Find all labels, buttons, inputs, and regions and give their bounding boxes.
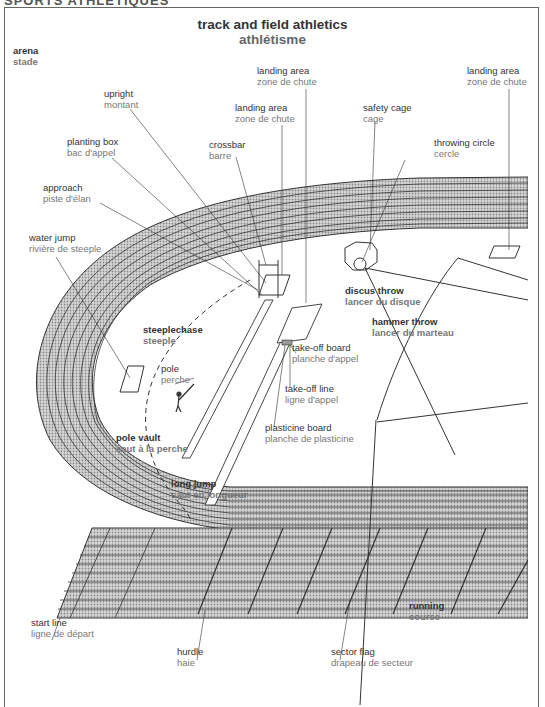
discus-cage [345, 242, 377, 270]
label-water-jump: water jumprivière de steeple [29, 232, 101, 254]
label-hammer-throw: hammer throwlancer du marteau [372, 316, 454, 338]
label-planting-box: planting boxbac d'appel [67, 136, 118, 158]
label-crossbar: crossbarbarre [209, 139, 245, 161]
label-safety-cage: safety cagecage [363, 102, 412, 124]
hammer-landing-area [489, 246, 520, 258]
label-hurdle: hurdlehaie [177, 646, 203, 668]
label-arena: arenastade [13, 45, 38, 67]
label-pole-vault: pole vaultsaut à la perche [116, 432, 188, 454]
label-sector-flag: sector flagdrapeau de secteur [331, 646, 413, 668]
label-discus-throw: discus throwlancer du disque [345, 285, 421, 307]
long-jump-pit [277, 304, 322, 343]
take-off-board [282, 340, 292, 345]
pole-vault-setup [259, 260, 290, 298]
label-approach: approachpiste d'élan [43, 182, 91, 204]
label-steeplechase: steeplechasesteeple [143, 324, 203, 346]
athlete [176, 384, 194, 412]
water-jump [120, 366, 144, 392]
label-plasticine-board: plasticine boardplanche de plasticine [265, 422, 354, 444]
title-french: athlétisme [0, 32, 545, 47]
label-running: runningcourse [409, 600, 444, 622]
diagram-title: track and field athletics athlétisme [0, 17, 545, 47]
label-start-line: start lineligne de départ [31, 617, 94, 639]
label-upright: uprightmontant [104, 88, 138, 110]
label-throwing-circle: throwing circlecercle [434, 137, 495, 159]
label-take-off-board: take-off boardplanche d'appel [292, 342, 358, 364]
label-landing-area-high-jump: landing areazone de chute [257, 65, 317, 87]
title-english: track and field athletics [0, 17, 545, 32]
label-landing-area-hammer: landing areazone de chute [467, 65, 527, 87]
label-pole: poleperche [161, 363, 190, 385]
label-take-off-line: take-off lineligne d'appel [285, 383, 338, 405]
label-landing-area-pole-vault: landing areazone de chute [235, 102, 295, 124]
label-long-jump: long jumpsaut en longueur [171, 478, 248, 500]
